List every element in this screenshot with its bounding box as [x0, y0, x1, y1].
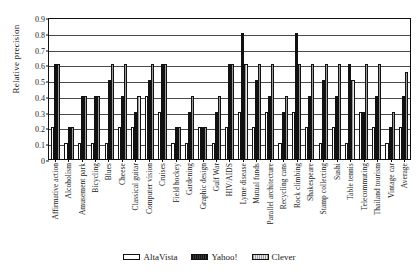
x-tick-label: Gulf War — [211, 163, 220, 191]
bar — [124, 64, 127, 159]
x-tick-mark — [350, 159, 351, 162]
x-tick-mark — [377, 159, 378, 162]
bar-group — [196, 19, 209, 159]
x-label-cell: Cruises — [156, 162, 169, 246]
x-tick-label: Parallel architecture — [265, 163, 274, 224]
bar-group — [223, 19, 236, 159]
x-label-cell: Bicycling — [88, 162, 101, 246]
x-label-cell: Gulf War — [209, 162, 222, 246]
bar — [325, 64, 328, 159]
bar — [137, 96, 140, 159]
bar — [311, 64, 314, 159]
x-tick-label: Table tennis — [346, 163, 355, 200]
x-tick-label: Classical guitar — [131, 163, 140, 210]
legend-item: Yahoo! — [191, 252, 237, 262]
x-tick-label: Bicycling — [91, 163, 100, 193]
x-tick-mark — [310, 159, 311, 162]
x-tick-label: Cheese — [117, 163, 126, 185]
x-label-cell: Alcoholism — [61, 162, 74, 246]
x-label-cell: Rock climbing — [290, 162, 303, 246]
x-label-cell: Shakespeare — [303, 162, 316, 246]
bar-group — [263, 19, 276, 159]
x-label-cell: Vintage car — [384, 162, 397, 246]
y-tick-label: 0.2 — [35, 125, 45, 134]
x-tick-mark — [216, 159, 217, 162]
x-tick-mark — [55, 159, 56, 162]
x-tick-mark — [243, 159, 244, 162]
x-axis-labels: Affirmative actionAlcoholismAmusement pa… — [48, 162, 411, 246]
bar — [338, 64, 341, 159]
bar-group — [156, 19, 169, 159]
x-tick-label: Computer vision — [144, 163, 153, 214]
x-label-cell: Mutual funds — [250, 162, 263, 246]
x-tick-label: Sushi — [332, 163, 341, 180]
x-tick-label: Lyme disease — [238, 163, 247, 204]
legend-label: Clever — [272, 252, 296, 262]
x-tick-mark — [256, 159, 257, 162]
x-label-cell: Thailand tourism — [371, 162, 384, 246]
x-tick-label: HIV/AIDS — [225, 163, 234, 196]
bar-group — [103, 19, 116, 159]
bar — [191, 96, 194, 159]
chart-figure: Relative precision 00.10.20.30.40.50.60.… — [0, 0, 419, 277]
bar — [111, 64, 114, 159]
bar — [271, 64, 274, 159]
x-tick-label: Shakespeare — [306, 163, 315, 201]
x-label-cell: Classical guitar — [129, 162, 142, 246]
x-tick-mark — [364, 159, 365, 162]
bar-group — [129, 19, 142, 159]
x-tick-label: Mutual funds — [252, 163, 261, 204]
bar-group — [89, 19, 102, 159]
x-tick-mark — [337, 159, 338, 162]
x-label-cell: Stamp collecting — [317, 162, 330, 246]
plot-area: 00.10.20.30.40.50.60.70.80.9 — [48, 18, 411, 160]
x-tick-mark — [149, 159, 150, 162]
bar-group — [276, 19, 289, 159]
x-label-cell: Sushi — [330, 162, 343, 246]
bar — [258, 64, 261, 159]
x-tick-mark — [323, 159, 324, 162]
x-label-cell: Field hockey — [169, 162, 182, 246]
bar — [57, 64, 60, 159]
legend-label: Yahoo! — [211, 252, 237, 262]
x-tick-label: Blues — [104, 163, 113, 180]
x-tick-mark — [270, 159, 271, 162]
bar-group — [343, 19, 356, 159]
bar — [298, 64, 301, 159]
x-tick-label: Gardening — [185, 163, 194, 195]
bar — [285, 96, 288, 159]
x-tick-label: Graphic design — [198, 163, 207, 209]
x-tick-label: Vintage car — [386, 163, 395, 198]
legend-item: Clever — [252, 252, 296, 262]
x-tick-label: Affirmative action — [50, 163, 59, 219]
x-tick-label: Stamp collecting — [319, 163, 328, 214]
y-tick-label: 0.7 — [35, 46, 45, 55]
x-tick-mark — [95, 159, 96, 162]
bar — [97, 96, 100, 159]
x-tick-mark — [82, 159, 83, 162]
bar — [71, 127, 74, 159]
bar-group — [62, 19, 75, 159]
bar-group — [143, 19, 156, 159]
bar-group — [169, 19, 182, 159]
x-tick-mark — [297, 159, 298, 162]
y-axis-label: Relative precision — [11, 0, 21, 119]
x-tick-label: Average — [400, 163, 409, 188]
x-tick-label: Telecommuting — [359, 163, 368, 211]
y-tick-label: 0.1 — [35, 141, 45, 150]
bar — [178, 127, 181, 159]
x-label-cell: Telecommuting — [357, 162, 370, 246]
y-tick-label: 0.5 — [35, 78, 45, 87]
bar — [392, 112, 395, 159]
x-tick-mark — [229, 159, 230, 162]
x-label-cell: Average — [397, 162, 410, 246]
bar-group — [76, 19, 89, 159]
bar — [231, 64, 234, 159]
x-label-cell: Graphic design — [196, 162, 209, 246]
x-label-cell: Parallel architecture — [263, 162, 276, 246]
x-label-cell: Table tennis — [344, 162, 357, 246]
x-tick-label: Alcoholism — [64, 163, 73, 199]
bar-group — [370, 19, 383, 159]
x-label-cell: Computer vision — [142, 162, 155, 246]
bar — [365, 64, 368, 159]
